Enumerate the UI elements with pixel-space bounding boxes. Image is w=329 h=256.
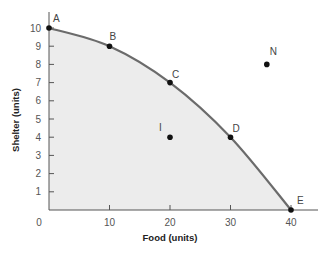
y-tick-label: 4 — [35, 132, 41, 143]
y-tick-label: 6 — [35, 95, 41, 106]
y-axis-title: Shelter (units) — [10, 88, 21, 152]
x-axis-title: Food (units) — [143, 232, 198, 243]
point-label-e: E — [297, 195, 304, 206]
point-c — [167, 80, 173, 86]
x-tick-label: 20 — [164, 217, 176, 228]
point-label-n: N — [270, 46, 277, 57]
y-tick-label: 7 — [35, 77, 41, 88]
y-tick-label: 9 — [35, 41, 41, 52]
y-tick-label: 8 — [35, 59, 41, 70]
y-tick-label: 10 — [30, 23, 42, 34]
point-label-b: B — [110, 31, 117, 42]
y-tick-label: 1 — [35, 186, 41, 197]
point-i — [167, 134, 173, 140]
x-tick-label: 0 — [36, 217, 42, 228]
x-tick-label: 30 — [225, 217, 237, 228]
point-label-d: D — [233, 123, 240, 134]
point-label-c: C — [172, 69, 179, 80]
y-tick-label: 2 — [35, 168, 41, 179]
y-tick-label: 5 — [35, 114, 41, 125]
point-e — [288, 207, 294, 213]
point-n — [264, 62, 270, 68]
y-tick-label: 3 — [35, 150, 41, 161]
point-label-i: I — [159, 122, 162, 133]
x-tick-label: 10 — [104, 217, 116, 228]
point-label-a: A — [53, 13, 60, 24]
feasible-region — [49, 28, 291, 210]
point-d — [228, 134, 234, 140]
point-b — [107, 43, 113, 49]
ppf-chart: 12345678910 010203040 ABCDEIN Shelter (u… — [0, 0, 329, 256]
x-tick-label: 40 — [285, 217, 297, 228]
point-a — [46, 25, 52, 31]
